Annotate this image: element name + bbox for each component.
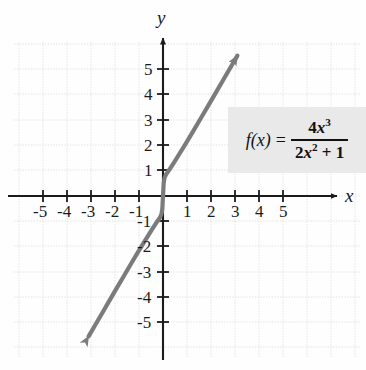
formula-callout: f(x) = 4x3 2x2 + 1 [228,107,366,173]
numerator-exponent: 3 [325,116,331,128]
y-tick-label-neg2: -2 [137,238,151,255]
formula-denominator: 2x2 + 1 [291,141,348,163]
x-tick-label-neg5: -5 [33,203,47,220]
formula-numerator: 4x3 [304,118,335,139]
y-tick-label-neg5: -5 [137,314,151,331]
y-tick-label-2: 2 [144,137,153,154]
y-tick-label-neg3: -3 [137,264,151,281]
y-axis-label: y [157,8,165,27]
denominator-plus-sign: + [322,143,332,162]
x-tick-label-neg2: -2 [105,203,119,220]
x-tick-label-5: 5 [279,203,288,220]
y-tick-label-neg1: -1 [137,213,151,230]
x-tick-label-1: 1 [183,203,192,220]
y-tick-label-3: 3 [144,112,153,129]
numerator-variable: x [317,118,326,137]
y-tick-label-1: 1 [144,162,153,179]
formula-equals-sign: = [276,130,286,151]
formula-fraction: 4x3 2x2 + 1 [291,118,348,163]
x-axis-label: x [345,186,353,205]
formula-lhs: f(x) [246,130,271,151]
y-tick-label-neg4: -4 [137,289,151,306]
y-tick-label-5: 5 [144,61,153,78]
denominator-constant: 1 [336,143,345,162]
y-tick-label-4: 4 [144,86,153,103]
graph-canvas [0,0,366,370]
denominator-variable: x [303,143,312,162]
numerator-coefficient: 4 [308,118,317,137]
x-tick-label-neg4: -4 [57,203,71,220]
x-tick-label-neg3: -3 [81,203,95,220]
x-tick-label-3: 3 [231,203,240,220]
formula-expression: f(x) = 4x3 2x2 + 1 [246,118,348,163]
x-tick-label-2: 2 [207,203,216,220]
function-graph-figure: -5 -4 -3 -2 -1 1 2 3 4 5 5 4 3 2 1 -1 -2… [0,0,366,370]
denominator-exponent: 2 [312,141,318,153]
x-tick-label-4: 4 [255,203,264,220]
